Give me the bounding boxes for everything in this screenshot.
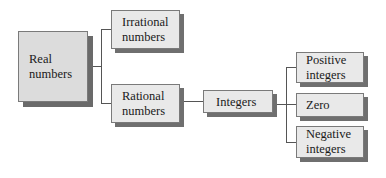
- node-label: Real numbers: [29, 52, 72, 82]
- node-label: Integers: [216, 94, 256, 109]
- node-label: Negative integers: [306, 127, 351, 157]
- node-zero: Zero: [296, 93, 364, 117]
- connector-integers-trunk: [286, 67, 287, 143]
- node-rational-numbers: Rational numbers: [111, 84, 180, 123]
- node-real-numbers: Real numbers: [18, 31, 88, 102]
- connector-to-irrational: [101, 29, 111, 30]
- node-label: Irrational numbers: [122, 15, 169, 45]
- connector-to-zero: [286, 104, 296, 105]
- connector-rational-integers: [180, 101, 203, 102]
- connector-real-trunk: [101, 29, 102, 104]
- node-negative-integers: Negative integers: [296, 126, 364, 158]
- node-positive-integers: Positive integers: [296, 52, 364, 83]
- node-label: Zero: [306, 98, 330, 113]
- node-irrational-numbers: Irrational numbers: [111, 10, 180, 49]
- connector-to-positive: [286, 67, 296, 68]
- node-integers: Integers: [203, 90, 273, 113]
- connector-real-branch: [88, 66, 102, 67]
- connector-to-negative: [286, 142, 296, 143]
- connector-to-rational: [101, 103, 111, 104]
- connector-integers-branch: [273, 104, 286, 105]
- node-label: Rational numbers: [122, 89, 165, 119]
- node-label: Positive integers: [306, 53, 346, 83]
